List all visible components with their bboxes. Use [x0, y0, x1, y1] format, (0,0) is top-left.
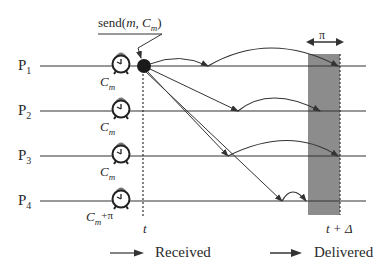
- clock-label-p3: Cm: [100, 164, 115, 182]
- send-label: send(m, Cm): [98, 15, 162, 33]
- send-event-dot: [137, 59, 151, 73]
- time-label-t: t: [143, 221, 147, 237]
- delivered-arrow-icon: [270, 249, 302, 257]
- process-label-p2: P2: [18, 102, 31, 121]
- clock-icon-p2: [113, 98, 130, 120]
- clock-icon-p4: [113, 188, 130, 210]
- clock-icon-p1: [113, 53, 130, 75]
- process-label-p1: P1: [18, 57, 31, 76]
- process-label-p3: P3: [18, 147, 31, 166]
- legend-received-label: Received: [155, 244, 211, 261]
- window-pi-label: π: [319, 28, 325, 43]
- received-arrow-icon: [110, 250, 144, 257]
- clock-icon-p3: [113, 143, 130, 165]
- clock-label-p4: Cm+π: [86, 209, 113, 227]
- clock-label-p1: Cm: [100, 74, 115, 92]
- process-label-p4: P4: [18, 192, 31, 211]
- send-annotation-leader: [98, 34, 162, 58]
- received-arrows: [146, 58, 282, 201]
- delivery-window: [308, 54, 340, 215]
- time-label-t-delta: t + Δ: [326, 221, 353, 237]
- legend-delivered-label: Delivered: [314, 244, 373, 261]
- clock-label-p2: Cm: [100, 119, 115, 137]
